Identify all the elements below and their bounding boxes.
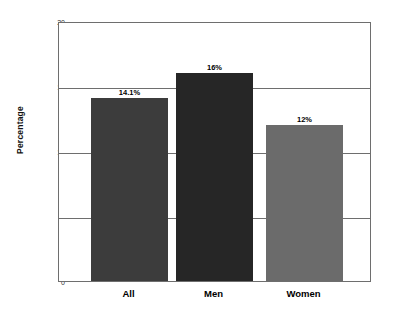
plot-area: 14.1% 16% 12% [58, 22, 371, 282]
category-label-men: Men [175, 289, 252, 299]
bar-chart-figure: Percentage 20 15 10 5 0 14.1% 16% 12% Al… [0, 0, 399, 314]
bar-women [266, 125, 343, 281]
bar-all [91, 98, 168, 281]
value-label-women: 12% [266, 116, 343, 124]
y-axis-title: Percentage [0, 0, 40, 260]
bar-men [176, 73, 253, 281]
value-label-men: 16% [176, 64, 253, 72]
value-label-all: 14.1% [91, 89, 168, 97]
category-label-women: Women [265, 289, 342, 299]
category-label-all: All [90, 289, 167, 299]
y-axis-title-text: Percentage [15, 106, 25, 154]
